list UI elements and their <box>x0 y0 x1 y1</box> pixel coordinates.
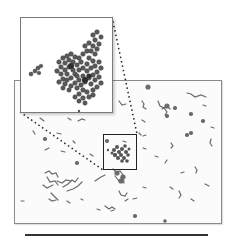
connector-line-lower <box>20 112 103 170</box>
connector-line-upper <box>112 17 137 134</box>
magnified-inset-panel <box>20 17 113 113</box>
magnified-cluster <box>21 18 114 114</box>
